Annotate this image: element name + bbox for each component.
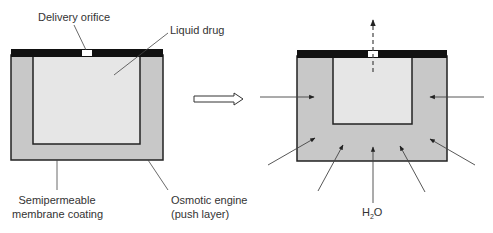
device-before [11, 25, 168, 190]
label-liquid-drug: Liquid drug [170, 23, 224, 37]
leader-engine [148, 160, 168, 190]
delivery-orifice [82, 50, 92, 56]
water-h: H [362, 206, 370, 218]
label-engine-line2: (push layer) [171, 207, 247, 221]
transition-arrow-icon [194, 93, 243, 105]
label-membrane: Semipermeable membrane coating [12, 193, 102, 221]
label-osmotic-engine: Osmotic engine (push layer) [171, 193, 247, 221]
label-membrane-line2: membrane coating [12, 207, 102, 221]
liquid-drug-chamber [33, 55, 140, 144]
label-delivery-orifice: Delivery orifice [38, 10, 110, 24]
label-engine-line1: Osmotic engine [171, 193, 247, 207]
label-water: H2O [362, 206, 382, 220]
device-after [297, 20, 447, 161]
liquid-drug-chamber-reduced [333, 56, 412, 124]
leader-orifice [74, 25, 86, 50]
label-membrane-line1: Semipermeable [12, 193, 102, 207]
water-o: O [374, 206, 383, 218]
